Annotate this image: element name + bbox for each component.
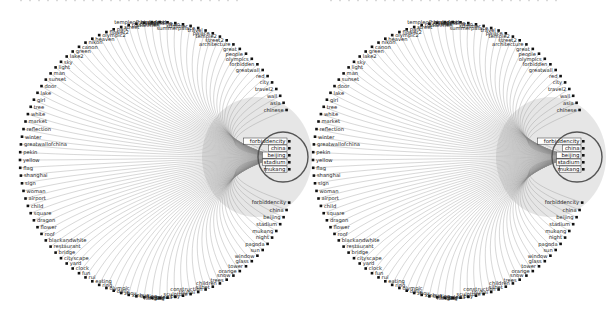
node-label: yard xyxy=(363,260,375,267)
node-marker xyxy=(91,37,94,40)
node-label: reflection xyxy=(27,126,51,132)
node-marker xyxy=(497,288,500,291)
node-label: yellow xyxy=(23,157,40,164)
node-label: restaurant xyxy=(347,243,374,249)
node-marker xyxy=(322,212,325,215)
node-marker xyxy=(317,120,320,123)
node-label: shanghai xyxy=(24,172,48,179)
node-marker xyxy=(353,61,356,64)
node-label: bridge xyxy=(352,249,369,256)
node-label: travel2 xyxy=(548,86,566,92)
node-marker xyxy=(245,265,248,268)
node-marker xyxy=(84,276,87,279)
node-marker xyxy=(329,92,332,95)
node-label: greatwallofchina xyxy=(317,141,360,148)
node-label: stadium xyxy=(549,221,570,227)
node-label: white xyxy=(31,111,45,117)
node-marker xyxy=(525,274,528,277)
node-marker xyxy=(532,270,535,273)
node-marker xyxy=(174,296,177,299)
node-marker xyxy=(364,50,367,53)
node-label: sky xyxy=(357,59,366,66)
node-marker xyxy=(197,291,200,294)
node-label: airport xyxy=(29,195,46,202)
node-label: asia xyxy=(270,100,281,106)
node-marker xyxy=(256,254,259,257)
node-marker xyxy=(251,58,254,61)
node-marker xyxy=(364,267,367,270)
node-marker xyxy=(314,135,317,138)
highlight-label: stadium xyxy=(264,159,286,165)
node-marker xyxy=(282,102,285,105)
node-label: airport xyxy=(322,195,339,202)
node-marker xyxy=(320,205,323,208)
node-marker xyxy=(120,26,123,29)
node-label: flower xyxy=(334,224,351,230)
node-marker xyxy=(578,109,581,112)
node-marker xyxy=(275,88,278,91)
node-marker xyxy=(40,85,43,88)
node-label: yard xyxy=(70,260,82,267)
node-label: china xyxy=(270,207,284,213)
node-marker xyxy=(313,174,316,177)
node-marker xyxy=(582,154,585,157)
node-label: man xyxy=(347,70,359,76)
highlight-label: stadium xyxy=(558,159,580,165)
node-marker xyxy=(232,274,235,277)
node-marker xyxy=(22,128,25,131)
node-marker xyxy=(358,55,361,58)
node-label: lake xyxy=(334,90,345,96)
node-label: blackandwhite xyxy=(342,237,380,243)
node-marker xyxy=(282,216,285,219)
node-marker xyxy=(98,34,101,37)
node-marker xyxy=(315,128,318,131)
node-marker xyxy=(279,95,282,98)
node-marker xyxy=(482,293,485,296)
node-label: tree xyxy=(34,104,44,110)
node-marker xyxy=(554,69,557,72)
node-marker xyxy=(45,78,48,81)
node-marker xyxy=(105,31,108,34)
node-marker xyxy=(549,254,552,257)
node-marker xyxy=(398,31,401,34)
node-marker xyxy=(65,262,68,265)
node-label: child xyxy=(324,203,336,209)
node-label: eating xyxy=(95,278,111,285)
node-marker xyxy=(288,147,291,150)
node-marker xyxy=(288,201,291,204)
highlight-label: china xyxy=(565,145,580,151)
node-label: man xyxy=(54,70,66,76)
node-label: greatwallofchina xyxy=(24,141,67,148)
node-label: red xyxy=(256,73,265,79)
node-marker xyxy=(91,280,94,283)
node-label: roof xyxy=(338,231,348,237)
node-marker xyxy=(33,98,36,101)
node-marker xyxy=(29,212,32,215)
node-label: chinese xyxy=(557,107,577,113)
node-marker xyxy=(19,151,22,154)
node-marker xyxy=(575,216,578,219)
node-marker xyxy=(84,41,87,44)
node-label: pekin xyxy=(316,149,330,156)
highlight-label: forbiddencity xyxy=(250,138,286,145)
node-label: square xyxy=(34,210,52,217)
node-marker xyxy=(21,182,24,185)
node-label: eating xyxy=(388,278,404,285)
node-marker xyxy=(275,230,278,233)
node-label: market xyxy=(322,118,340,124)
node-label: wall xyxy=(560,93,570,99)
node-marker xyxy=(312,151,315,154)
node-label: sign xyxy=(318,180,329,187)
node-marker xyxy=(467,296,470,299)
node-label: girl xyxy=(330,97,338,104)
node-marker xyxy=(36,92,39,95)
node-label: girl xyxy=(37,97,45,104)
node-label: pekin xyxy=(23,149,37,156)
node-label: light xyxy=(59,64,71,71)
node-marker xyxy=(19,159,22,162)
node-label: sunset xyxy=(342,76,359,82)
node-marker xyxy=(326,98,329,101)
node-label: wall xyxy=(267,93,277,99)
node-marker xyxy=(71,50,74,53)
node-marker xyxy=(219,282,222,285)
